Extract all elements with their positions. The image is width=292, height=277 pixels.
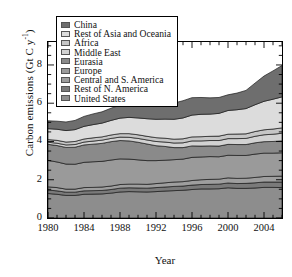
chart-figure: Carbon emissions (Gt C y-1) 02468 198019… [0, 0, 292, 277]
legend-label: United States [74, 94, 125, 103]
legend-swatch [61, 40, 70, 46]
y-tick-label: 6 [28, 97, 42, 107]
y-tick-label: 2 [28, 174, 42, 184]
legend-swatch [61, 86, 70, 92]
x-axis-title: Year [47, 254, 283, 266]
y-tick-label: 0 [28, 212, 42, 222]
x-tick-label: 1980 [31, 222, 65, 234]
x-tick-label: 1984 [67, 222, 101, 234]
legend-swatch [61, 95, 70, 101]
x-tick-label: 1988 [103, 222, 137, 234]
y-tick-label: 8 [28, 59, 42, 69]
chart-legend: ChinaRest of Asia and OceaniaAfricaMiddl… [56, 16, 178, 107]
legend-swatch [61, 49, 70, 55]
legend-swatch [61, 58, 70, 64]
legend-swatch [61, 22, 70, 28]
x-tick-label: 1996 [175, 222, 209, 234]
legend-swatch [61, 31, 70, 37]
x-tick-label: 1992 [139, 222, 173, 234]
x-axis-tick-labels: 1980198419881992199620002004 [0, 222, 292, 238]
y-tick-label: 4 [28, 135, 42, 145]
legend-item[interactable]: United States [61, 94, 171, 103]
legend-swatch [61, 68, 70, 74]
x-tick-label: 2000 [211, 222, 245, 234]
x-tick-label: 2004 [247, 222, 281, 234]
legend-swatch [61, 77, 70, 83]
